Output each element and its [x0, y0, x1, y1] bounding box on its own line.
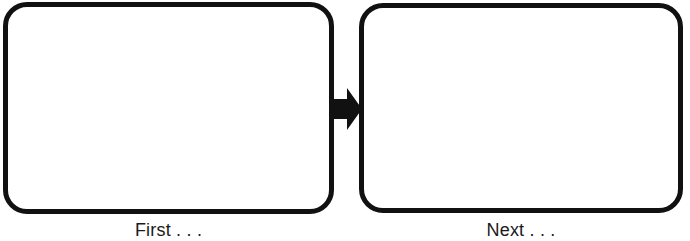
panel-first-caption: First . . . [3, 219, 334, 241]
figure-canvas: First . . . Next . . . [0, 0, 690, 241]
panel-first-drawing-area[interactable] [8, 7, 329, 209]
panel-first[interactable] [3, 2, 334, 214]
panel-next[interactable] [359, 3, 683, 213]
panel-next-drawing-area[interactable] [364, 8, 678, 208]
panel-next-caption: Next . . . [359, 219, 683, 241]
